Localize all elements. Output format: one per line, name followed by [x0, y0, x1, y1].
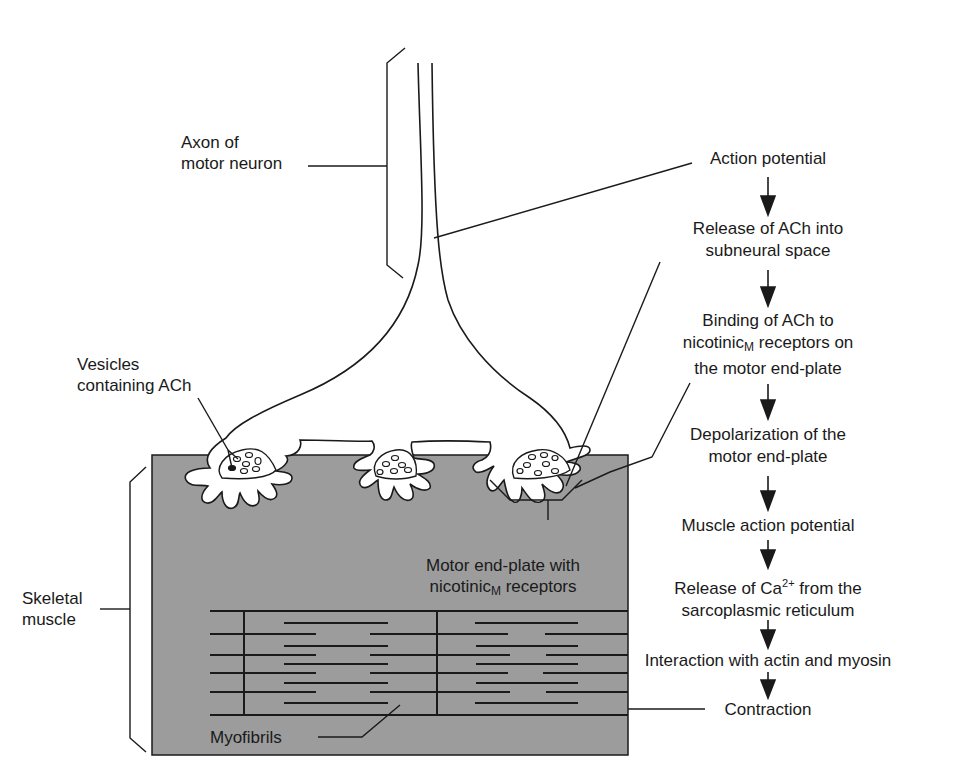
down-arrow-icon — [761, 270, 775, 306]
flow-step-calcium-release: Release of Ca2+ from the sarcoplasmic re… — [588, 572, 948, 622]
flow-step-actin-myosin: Interaction with actin and myosin — [588, 650, 948, 672]
myofibrils-label: Myofibrils — [210, 727, 282, 748]
down-arrow-icon — [761, 620, 775, 648]
down-arrow-icon — [761, 672, 775, 698]
down-arrow-icon — [761, 177, 775, 215]
end-plate-label: Motor end-plate with nicotinicM receptor… — [426, 555, 580, 602]
skeletal-muscle-bracket — [130, 467, 146, 752]
axon-bracket — [387, 48, 405, 278]
flow-step-contraction: Contraction — [588, 699, 948, 721]
axon-label: Axon of motor neuron — [181, 132, 282, 174]
vesicles-label: Vesicles containing ACh — [77, 354, 191, 396]
flow-step-muscle-action-potential: Muscle action potential — [588, 515, 948, 537]
skeletal-muscle-label: Skeletal muscle — [22, 588, 82, 630]
flow-step-depolarization: Depolarization of the motor end-plate — [588, 424, 948, 468]
flow-step-ach-binding: Binding of ACh to nicotinicM receptors o… — [588, 310, 948, 380]
down-arrow-icon — [761, 384, 775, 419]
down-arrow-icon — [761, 476, 775, 510]
flow-step-ach-release: Release of ACh into subneural space — [588, 218, 948, 262]
flow-step-action-potential: Action potential — [588, 148, 948, 170]
down-arrow-icon — [761, 540, 775, 568]
